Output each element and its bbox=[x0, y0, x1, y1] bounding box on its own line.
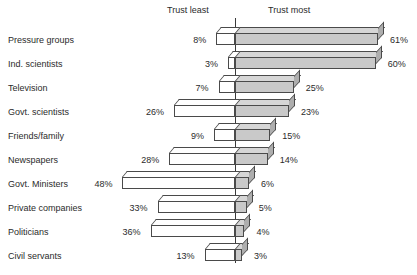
bar-trust-least bbox=[122, 177, 235, 189]
value-label-trust-least: 9% bbox=[144, 131, 204, 141]
bar-trust-most bbox=[235, 57, 376, 69]
value-label-trust-most: 3% bbox=[254, 251, 267, 261]
bar-top-face bbox=[151, 219, 242, 225]
value-label-trust-least: 26% bbox=[104, 107, 164, 117]
axis-caption-right: Trust most bbox=[268, 5, 310, 15]
bar-top-face bbox=[158, 195, 242, 201]
value-label-trust-most: 60% bbox=[388, 59, 406, 69]
chart-row: Television7%25% bbox=[0, 72, 417, 96]
value-label-trust-least: 48% bbox=[52, 179, 112, 189]
value-label-trust-most: 14% bbox=[280, 155, 298, 165]
bar-top-face bbox=[174, 99, 242, 105]
value-label-trust-least: 7% bbox=[149, 83, 209, 93]
category-label: Govt. scientists bbox=[8, 107, 69, 117]
chart-row: Friends/family9%15% bbox=[0, 120, 417, 144]
bar-trust-most bbox=[235, 33, 378, 45]
chart-row: Govt. scientists26%23% bbox=[0, 96, 417, 120]
chart-container: Trust least Trust most Pressure groups8%… bbox=[0, 0, 417, 275]
value-label-trust-most: 61% bbox=[390, 35, 408, 45]
bar-trust-least bbox=[216, 33, 235, 45]
category-label: Private companies bbox=[8, 203, 82, 213]
bar-trust-least bbox=[214, 129, 235, 141]
chart-row: Govt. Ministers48%6% bbox=[0, 168, 417, 192]
category-label: Television bbox=[8, 83, 48, 93]
value-label-trust-least: 3% bbox=[158, 59, 218, 69]
bar-trust-least bbox=[205, 249, 235, 261]
bar-side-face bbox=[268, 142, 274, 160]
bar-top-face bbox=[235, 51, 383, 57]
bar-trust-most bbox=[235, 81, 294, 93]
bar-trust-most bbox=[235, 249, 242, 261]
category-label: Politicians bbox=[8, 227, 49, 237]
bar-side-face bbox=[249, 166, 255, 184]
value-label-trust-most: 6% bbox=[261, 179, 274, 189]
bar-side-face bbox=[294, 70, 300, 88]
bar-trust-least bbox=[169, 153, 235, 165]
bar-trust-least bbox=[151, 225, 235, 237]
bar-side-face bbox=[247, 190, 253, 208]
bar-trust-least bbox=[219, 81, 235, 93]
bar-side-face bbox=[244, 214, 250, 232]
bar-side-face bbox=[270, 118, 276, 136]
bar-top-face bbox=[122, 171, 242, 177]
value-label-trust-least: 8% bbox=[146, 35, 206, 45]
category-label: Friends/family bbox=[8, 131, 64, 141]
value-label-trust-least: 13% bbox=[135, 251, 195, 261]
category-label: Pressure groups bbox=[8, 35, 74, 45]
category-label: Newspapers bbox=[8, 155, 58, 165]
bar-trust-least bbox=[228, 57, 235, 69]
bar-top-face bbox=[169, 147, 242, 153]
bar-side-face bbox=[378, 22, 384, 40]
value-label-trust-least: 36% bbox=[81, 227, 141, 237]
bar-trust-most bbox=[235, 105, 289, 117]
chart-row: Newspapers28%14% bbox=[0, 144, 417, 168]
bar-trust-most bbox=[235, 201, 247, 213]
bar-side-face bbox=[289, 94, 295, 112]
chart-row: Private companies33%5% bbox=[0, 192, 417, 216]
axis-caption-left: Trust least bbox=[167, 5, 209, 15]
bar-trust-least bbox=[174, 105, 235, 117]
value-label-trust-most: 23% bbox=[301, 107, 319, 117]
bar-trust-most bbox=[235, 129, 270, 141]
bar-trust-most bbox=[235, 153, 268, 165]
value-label-trust-most: 15% bbox=[282, 131, 300, 141]
bar-trust-most bbox=[235, 225, 244, 237]
value-label-trust-most: 25% bbox=[306, 83, 324, 93]
value-label-trust-least: 33% bbox=[88, 203, 148, 213]
bar-trust-most bbox=[235, 177, 249, 189]
category-label: Civil servants bbox=[8, 251, 62, 261]
bar-top-face bbox=[235, 27, 385, 33]
bar-top-face bbox=[235, 75, 301, 81]
bar-side-face bbox=[242, 238, 248, 256]
bar-top-face bbox=[235, 99, 296, 105]
bar-side-face bbox=[376, 46, 382, 64]
chart-row: Pressure groups8%61% bbox=[0, 24, 417, 48]
bar-trust-least bbox=[158, 201, 235, 213]
value-label-trust-most: 5% bbox=[259, 203, 272, 213]
category-label: Ind. scientists bbox=[8, 59, 63, 69]
value-label-trust-least: 28% bbox=[99, 155, 159, 165]
chart-row: Politicians36%4% bbox=[0, 216, 417, 240]
chart-row: Ind. scientists3%60% bbox=[0, 48, 417, 72]
chart-row: Civil servants13%3% bbox=[0, 240, 417, 264]
value-label-trust-most: 4% bbox=[256, 227, 269, 237]
